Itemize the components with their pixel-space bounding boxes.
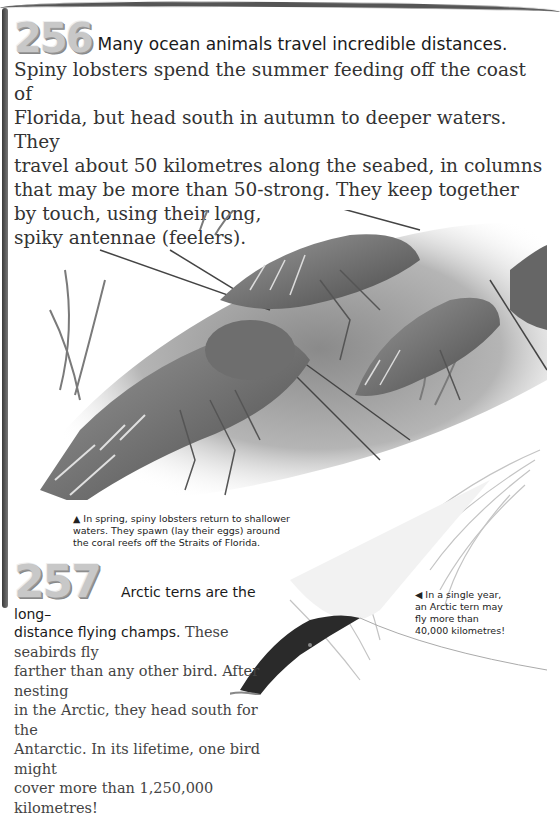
text-line: that may be more than 50-strong. They ke…	[14, 178, 544, 202]
fact-257-heading: 257 Arctic terns are the long–	[14, 560, 274, 623]
caption-line: an Arctic tern may	[415, 601, 525, 613]
fact-body: distance flying champs. These seabirds f…	[14, 623, 274, 817]
text-line: cover more than 1,250,000 kilometres!	[14, 779, 274, 817]
text-line: Antarctic. In its lifetime, one bird mig…	[14, 740, 274, 779]
page-border-left	[2, 8, 8, 608]
tern-illustration	[230, 440, 547, 695]
caption-line: fly more than	[415, 613, 525, 625]
up-arrow-icon: ▲	[73, 513, 80, 524]
caption-line: 40,000 kilometres!	[415, 625, 525, 637]
fact-number: 257	[14, 560, 100, 604]
text-line: Spiny lobsters spend the summer feeding …	[14, 58, 544, 106]
fact-257: 257 Arctic terns are the long– distance …	[14, 560, 274, 817]
fact-lead: Many ocean animals travel incredible dis…	[98, 34, 508, 54]
text-line: in the Arctic, they head south for the	[14, 701, 274, 740]
left-arrow-icon: ◀	[415, 589, 422, 600]
fact-number: 256	[14, 18, 92, 58]
fact-lead-part2: distance flying champs.	[14, 624, 180, 640]
text-line: travel about 50 kilometres along the sea…	[14, 154, 544, 178]
text-line: Florida, but head south in autumn to dee…	[14, 106, 544, 154]
caption-line: In a single year,	[425, 589, 501, 600]
text-line: farther than any other bird. After nesti…	[14, 662, 274, 701]
tern-caption: ◀ In a single year, an Arctic tern may f…	[415, 589, 525, 637]
fact-256-heading: 256Many ocean animals travel incredible …	[14, 18, 544, 58]
